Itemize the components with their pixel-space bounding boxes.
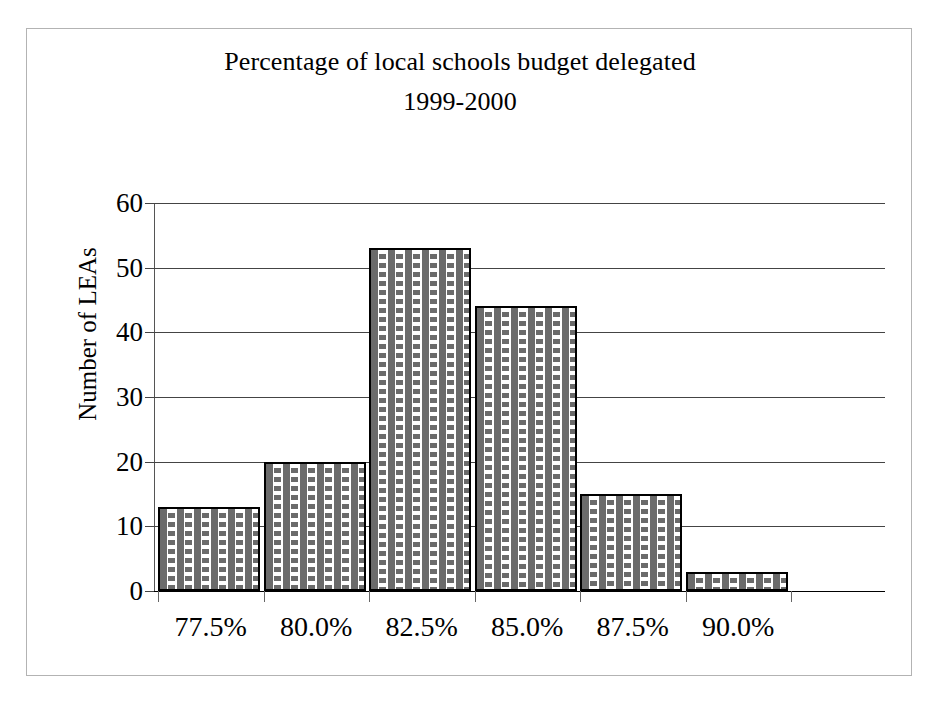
x-tick-mark-2 xyxy=(369,591,370,602)
y-tick-label-50: 50 xyxy=(116,254,143,281)
y-axis-label: Number of LEAs xyxy=(74,184,102,484)
x-tick-mark-5 xyxy=(686,591,687,602)
chart-subtitle: 1999-2000 xyxy=(60,82,860,122)
y-tick-label-40: 40 xyxy=(116,319,143,346)
y-tick-mark-30 xyxy=(145,397,154,398)
bar-hatch-pattern xyxy=(266,464,364,589)
y-tick-label-10: 10 xyxy=(116,513,143,540)
gridline-60 xyxy=(154,203,885,204)
y-tick-label-0: 0 xyxy=(130,578,144,605)
y-tick-mark-40 xyxy=(145,332,154,333)
bar-hatch-pattern xyxy=(582,496,680,589)
y-tick-label-20: 20 xyxy=(116,448,143,475)
y-tick-mark-10 xyxy=(145,526,154,527)
bar-77.5% xyxy=(158,507,260,591)
bar-hatch-pattern xyxy=(160,509,258,589)
y-tick-mark-50 xyxy=(145,268,154,269)
y-tick-mark-60 xyxy=(145,203,154,204)
x-tick-mark-0 xyxy=(158,591,159,602)
y-tick-mark-20 xyxy=(145,462,154,463)
bar-87.5% xyxy=(580,494,682,591)
bar-hatch-pattern xyxy=(371,250,469,589)
y-tick-label-60: 60 xyxy=(116,190,143,217)
x-tick-label-80.0%: 80.0% xyxy=(280,613,352,641)
chart-figure: Percentage of local schools budget deleg… xyxy=(0,0,931,704)
x-tick-label-85.0%: 85.0% xyxy=(491,613,563,641)
plot-area: 0102030405060 77.5%80.0%82.5%85.0%87.5%9… xyxy=(154,203,885,591)
x-tick-label-77.5%: 77.5% xyxy=(175,613,247,641)
bar-82.5% xyxy=(369,248,471,591)
x-tick-label-87.5%: 87.5% xyxy=(597,613,669,641)
gridline-50 xyxy=(154,268,885,269)
x-tick-mark-4 xyxy=(580,591,581,602)
x-tick-mark-1 xyxy=(264,591,265,602)
x-tick-mark-6 xyxy=(791,591,792,602)
x-tick-label-90.0%: 90.0% xyxy=(702,613,774,641)
bar-90.0% xyxy=(686,572,788,591)
x-tick-label-82.5%: 82.5% xyxy=(386,613,458,641)
bar-hatch-pattern xyxy=(477,308,575,589)
y-tick-mark-0 xyxy=(145,591,154,592)
x-tick-mark-3 xyxy=(475,591,476,602)
chart-title-block: Percentage of local schools budget deleg… xyxy=(60,42,860,122)
chart-title: Percentage of local schools budget deleg… xyxy=(60,42,860,82)
bar-85.0% xyxy=(475,306,577,591)
y-tick-label-30: 30 xyxy=(116,384,143,411)
bar-80.0% xyxy=(264,462,366,591)
bar-hatch-pattern xyxy=(688,574,786,589)
